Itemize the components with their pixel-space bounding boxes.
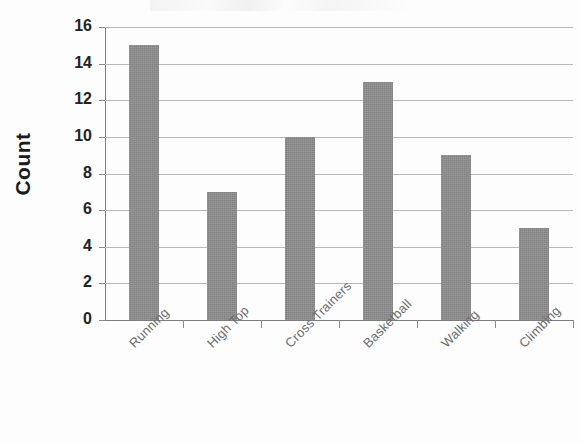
y-axis-tick-label: 0 <box>58 310 92 328</box>
y-axis-tick-label: 10 <box>58 127 92 145</box>
y-axis-tick-label: 6 <box>58 200 92 218</box>
y-axis-tick-label: 2 <box>58 273 92 291</box>
y-axis-tick-label: 8 <box>58 164 92 182</box>
gridline <box>105 137 573 138</box>
gridline <box>105 247 573 248</box>
y-axis-tick-label: 12 <box>58 90 92 108</box>
x-axis-tick <box>261 320 262 328</box>
bar-chart: Count 0246810121416 RunningHigh TopCross… <box>0 0 581 443</box>
y-axis-tick-label: 16 <box>58 17 92 35</box>
plot-area <box>105 27 573 320</box>
x-axis-tick <box>495 320 496 328</box>
bar <box>285 137 315 320</box>
x-axis-tick <box>573 320 574 328</box>
y-axis-tick-label: 14 <box>58 54 92 72</box>
x-axis-tick <box>183 320 184 328</box>
bar <box>519 228 549 320</box>
gridline <box>105 27 573 28</box>
gridline <box>105 174 573 175</box>
x-axis-tick <box>339 320 340 328</box>
gridline <box>105 64 573 65</box>
y-axis-tick-label: 4 <box>58 237 92 255</box>
gridline <box>105 210 573 211</box>
bar <box>441 155 471 320</box>
x-axis-tick <box>417 320 418 328</box>
bar <box>207 192 237 320</box>
y-axis-title: Count <box>11 114 35 214</box>
gridline <box>105 100 573 101</box>
bar <box>363 82 393 320</box>
bar <box>129 45 159 320</box>
chart-title-cropped <box>150 0 410 11</box>
